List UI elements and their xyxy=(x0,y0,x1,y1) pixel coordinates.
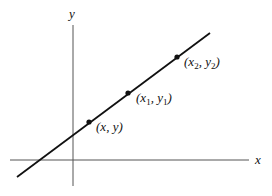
point-x-y xyxy=(86,119,91,124)
point-x2-y2 xyxy=(174,54,179,59)
point-x1-y1-label: (x1, y1) xyxy=(136,90,172,107)
coordinate-diagram: y x (x, y) (x1, y1) (x2, y2) xyxy=(0,0,272,196)
y-axis-label: y xyxy=(67,6,75,21)
point-x-y-label: (x, y) xyxy=(96,119,123,134)
straight-line xyxy=(17,33,210,177)
point-x2-y2-label: (x2, y2) xyxy=(184,54,220,71)
x-axis-label: x xyxy=(254,152,261,167)
point-x1-y1 xyxy=(125,90,130,95)
